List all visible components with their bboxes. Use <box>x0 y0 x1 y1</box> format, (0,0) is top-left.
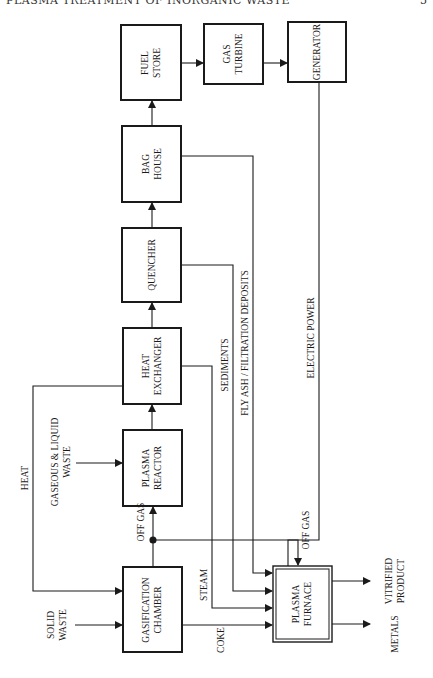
heat-exchanger-box <box>123 328 181 404</box>
heat-label: HEAT <box>20 466 30 490</box>
plasma-reactor-label: PLASMAREACTOR <box>141 445 163 490</box>
gasification-chamber-label: GASIFICATIONCHAMBER <box>141 577 163 643</box>
gas-turbine-label: GASTURBINE <box>222 33 244 74</box>
off-gas-label-1: OFF GAS <box>136 503 146 542</box>
vitrified-product-label: VITRIFIEDPRODUCT <box>384 558 406 605</box>
heat-exchanger-label: HEATEXCHANGER <box>141 336 163 395</box>
off-gas-label-2: OFF GAS <box>301 511 311 550</box>
bag-house-box <box>122 126 181 202</box>
coke-label: COKE <box>216 627 226 653</box>
solid-waste-label: SOLIDWASTE <box>46 609 68 641</box>
steam-label: STEAM <box>199 568 209 601</box>
bag-house-label: BAGHOUSE <box>141 148 163 180</box>
plasma-furnace-label: PLASMAFURNACE <box>291 582 313 627</box>
fuel-store-box <box>121 25 181 100</box>
metals-label: METALS <box>390 615 400 652</box>
fly-ash-label: FLY ASH / FILTRATION DEPOSITS <box>240 270 250 416</box>
fuel-store-label: FUELSTORE <box>140 48 162 78</box>
generator-label: GENERATOR <box>312 23 322 80</box>
gaseous-liquid-waste-label: GASEOUS & LIQUIDWASTE <box>50 418 72 507</box>
quencher-label: QUENCHER <box>147 238 157 290</box>
sediments-label: SEDIMENTS <box>220 338 230 391</box>
electric-power-label: ELECTRIC POWER <box>306 297 316 379</box>
process-flow-diagram: FUELSTORE GASTURBINE GENERATOR BAGHOUSE … <box>0 0 433 678</box>
